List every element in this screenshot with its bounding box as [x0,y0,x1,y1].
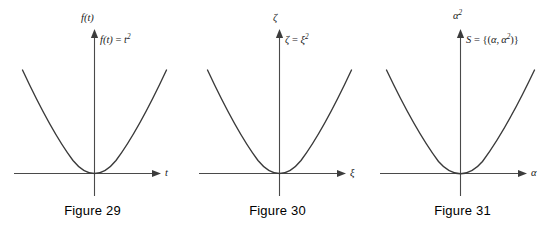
equation-rhs-exponent: 2 [127,33,131,41]
plot-area-31 [370,0,555,196]
figure-panel-29: f(t) t f(t) = t2 Figure 29 [0,0,185,240]
equation-annotation: S = {(α, α2)} [466,35,519,46]
figure-caption: Figure 31 [370,203,555,218]
figure-panel-31: α2 α S = {(α, α2)} Figure 31 [370,0,555,240]
plot-area-30 [185,0,370,196]
y-axis-label-exponent: 2 [459,9,463,17]
plot-area-29 [0,0,185,196]
y-axis-label: α2 [453,11,462,22]
x-axis-arrowhead-icon [518,170,527,177]
figure-panel-30: ζ ξ ζ = ξ2 Figure 30 [185,0,370,240]
equation-annotation: f(t) = t2 [100,35,131,46]
x-axis-label: α [531,168,537,179]
x-axis-label: ξ [350,168,355,179]
figure-row: f(t) t f(t) = t2 Figure 29 ζ ξ ζ = ξ2 Fi… [0,0,555,240]
y-axis-arrowhead-icon [276,29,283,38]
equation-annotation: ζ = ξ2 [285,35,309,46]
equation-lhs: f(t) [100,34,113,45]
equation-relation: = [289,34,300,45]
equation-relation: = [113,34,124,45]
equation-set-open: {( [482,34,491,45]
y-axis-label: f(t) [81,13,94,24]
x-axis-arrowhead-icon [337,170,346,177]
x-axis-arrowhead-icon [152,170,161,177]
x-axis-label: t [165,168,168,179]
figure-caption: Figure 29 [0,203,185,218]
figure-caption: Figure 30 [185,203,370,218]
y-axis-arrowhead-icon [91,29,98,38]
y-axis-label: ζ [273,13,277,24]
y-axis-arrowhead-icon [457,29,464,38]
equation-set-close: )} [510,34,519,45]
equation-rhs-exponent: 2 [305,33,309,41]
equation-relation: = [471,34,482,45]
